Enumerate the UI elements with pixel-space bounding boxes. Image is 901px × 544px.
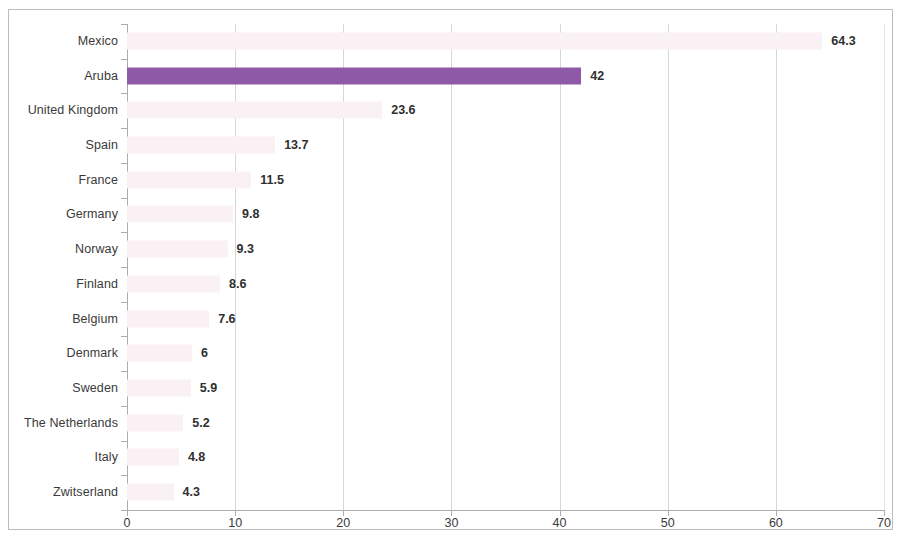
- bar-row: Finland8.6: [0, 267, 901, 301]
- x-axis-label: 20: [336, 516, 350, 530]
- x-axis-label: 10: [228, 516, 242, 530]
- category-label: Italy: [95, 450, 118, 464]
- category-label: United Kingdom: [28, 103, 118, 117]
- category-label: The Netherlands: [24, 416, 118, 430]
- bar: [127, 32, 822, 49]
- bar-value-label: 42: [590, 69, 604, 83]
- bar: [127, 102, 382, 119]
- category-label: Aruba: [84, 69, 118, 83]
- bar-value-label: 9.3: [237, 242, 254, 256]
- bar-value-label: 64.3: [831, 34, 855, 48]
- bar-row: Sweden5.9: [0, 371, 901, 405]
- category-label: France: [78, 173, 118, 187]
- category-label: Belgium: [72, 312, 118, 326]
- bar: [127, 380, 191, 397]
- bar-value-label: 11.5: [260, 173, 284, 187]
- bar: [127, 137, 275, 154]
- x-axis-line: [127, 510, 884, 511]
- bar: [127, 171, 251, 188]
- category-label: Sweden: [72, 381, 118, 395]
- x-axis-label: 60: [769, 516, 783, 530]
- bar-row: France11.5: [0, 163, 901, 197]
- bar-row: The Netherlands5.2: [0, 406, 901, 440]
- bar-value-label: 23.6: [391, 103, 415, 117]
- bar-row: Zwitserland4.3: [0, 475, 901, 509]
- category-label: Norway: [75, 242, 118, 256]
- bar-row: Denmark6: [0, 336, 901, 370]
- category-label: Finland: [76, 277, 118, 291]
- x-axis-label: 40: [553, 516, 567, 530]
- bar-row: Aruba42: [0, 59, 901, 93]
- bar: [127, 484, 174, 501]
- bar-row: Belgium7.6: [0, 302, 901, 336]
- bar: [127, 275, 220, 292]
- bar: [127, 310, 209, 327]
- bar: [127, 241, 228, 258]
- bar-value-label: 4.8: [188, 450, 205, 464]
- category-label: Mexico: [78, 34, 118, 48]
- bar-value-label: 9.8: [242, 207, 259, 221]
- bar-row: Spain13.7: [0, 128, 901, 162]
- category-label: Spain: [86, 138, 118, 152]
- category-label: Denmark: [67, 346, 118, 360]
- bar: [127, 449, 179, 466]
- bar-row: Germany9.8: [0, 198, 901, 232]
- bar-chart-plot: Mexico64.3Aruba42United Kingdom23.6Spain…: [0, 0, 901, 544]
- x-axis-label: 70: [877, 516, 891, 530]
- x-axis-label: 0: [124, 516, 131, 530]
- bar: [127, 345, 192, 362]
- bar-row: United Kingdom23.6: [0, 93, 901, 127]
- x-axis-label: 50: [661, 516, 675, 530]
- category-label: Germany: [66, 207, 118, 221]
- bar-row: Mexico64.3: [0, 24, 901, 58]
- bar: [127, 206, 233, 223]
- bar: [127, 414, 183, 431]
- bar-value-label: 6: [201, 346, 208, 360]
- bar-value-label: 5.2: [192, 416, 209, 430]
- bar-row: Norway9.3: [0, 232, 901, 266]
- bar-value-label: 8.6: [229, 277, 246, 291]
- bar-value-label: 4.3: [183, 485, 200, 499]
- category-label: Zwitserland: [53, 485, 118, 499]
- x-axis-label: 30: [444, 516, 458, 530]
- bar-value-label: 13.7: [284, 138, 308, 152]
- bar-value-label: 5.9: [200, 381, 217, 395]
- bar-highlighted: [127, 67, 581, 84]
- bar-value-label: 7.6: [218, 312, 235, 326]
- bar-row: Italy4.8: [0, 441, 901, 475]
